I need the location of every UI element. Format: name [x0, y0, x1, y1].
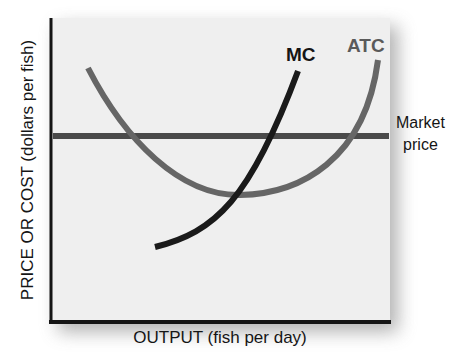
atc-label: ATC: [347, 35, 385, 57]
market-price-label-line1: Market: [396, 112, 445, 134]
chart-figure: PRICE OR COST (dollars per fish) OUTPUT …: [0, 0, 476, 364]
atc-curve: [88, 60, 378, 195]
chart-curves: [0, 0, 476, 364]
market-price-label-line2: price: [396, 134, 445, 156]
mc-label: MC: [286, 44, 316, 66]
market-price-label: Market price: [396, 112, 445, 156]
mc-curve: [155, 71, 298, 247]
y-axis-label: PRICE OR COST (dollars per fish): [18, 40, 38, 300]
x-axis-label: OUTPUT (fish per day): [133, 328, 307, 348]
